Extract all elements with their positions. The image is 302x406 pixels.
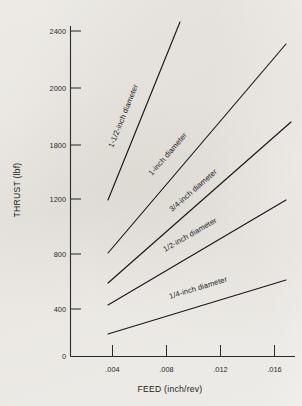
y-tick-label-2400: 2400	[50, 27, 66, 36]
y-tick-label-400: 400	[54, 305, 66, 314]
curve-1-inch	[108, 44, 286, 253]
x-axis-ticks	[113, 345, 275, 357]
y-axis-title: THRUST (lbf)	[12, 163, 22, 218]
series-label-1-inch: 1-inch diameter	[147, 130, 189, 177]
y-tick-label-0: 0	[62, 352, 66, 361]
x-tick-label-012: .012	[213, 365, 227, 374]
x-axis-title: FEED (inch/rev)	[138, 384, 203, 394]
x-tick-label-016: .016	[267, 365, 281, 374]
chart-canvas: 2400 2000 1800 1200 800 400 0 .004 .008 …	[0, 0, 302, 406]
series-label-1-1-2-inch: 1-1/2-inch diameter	[107, 83, 141, 149]
series-label-1-2-inch: 1/2-inch diameter	[162, 216, 219, 254]
x-tick-label-008: .008	[159, 365, 173, 374]
x-axis-tick-labels: .004 .008 .012 .016	[105, 365, 281, 374]
y-tick-label-2000: 2000	[50, 84, 66, 93]
axis-lines	[71, 26, 296, 357]
x-tick-label-004: .004	[105, 365, 119, 374]
y-tick-label-1200: 1200	[50, 195, 66, 204]
y-axis-ticks	[71, 31, 82, 309]
series-label-1-4-inch: 1/4-inch diameter	[168, 275, 229, 301]
curve-1-1-2-inch	[108, 22, 180, 200]
y-tick-label-1800: 1800	[50, 141, 66, 150]
y-axis-tick-labels: 2400 2000 1800 1200 800 400 0	[50, 27, 66, 361]
y-tick-label-800: 800	[54, 250, 66, 259]
thrust-vs-feed-chart: 2400 2000 1800 1200 800 400 0 .004 .008 …	[0, 0, 302, 406]
